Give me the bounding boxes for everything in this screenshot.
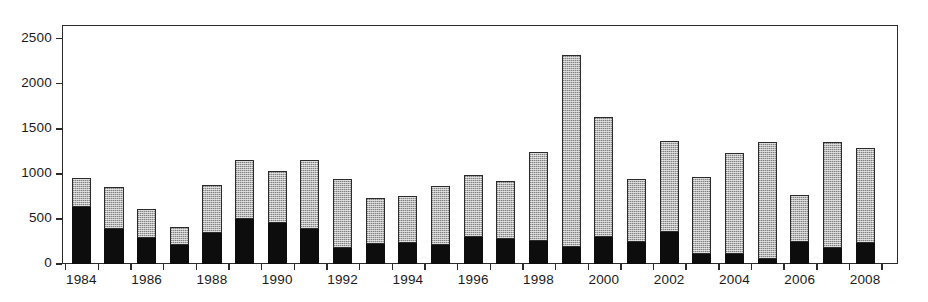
- chart-figure: 05001000150020002500 1984198619881990199…: [0, 0, 928, 302]
- bar-segment-upper: [725, 153, 744, 254]
- x-tick-mark: [261, 264, 262, 270]
- bar-1998: [529, 152, 548, 264]
- bar-segment-upper: [496, 181, 515, 239]
- x-tick-mark: [163, 264, 164, 270]
- bar-segment-lower: [529, 241, 548, 264]
- x-tick-mark: [881, 264, 882, 270]
- x-tick-label: 2002: [654, 272, 685, 287]
- y-tick-label: 2500: [21, 30, 52, 45]
- x-tick-mark: [718, 264, 719, 270]
- x-tick-mark: [588, 264, 589, 270]
- bar-segment-lower: [235, 219, 254, 264]
- bar-2001: [627, 179, 646, 264]
- bar-segment-upper: [268, 171, 287, 223]
- bar-segment-upper: [790, 195, 809, 242]
- x-tick-mark: [620, 264, 621, 270]
- bar-segment-lower: [496, 239, 515, 264]
- bar-2006: [790, 195, 809, 264]
- bar-segment-lower: [137, 238, 156, 264]
- bar-segment-lower: [104, 229, 123, 264]
- bar-segment-upper: [660, 141, 679, 233]
- bar-1986: [137, 209, 156, 264]
- bar-segment-lower: [660, 232, 679, 264]
- x-tick-mark: [457, 264, 458, 270]
- x-tick-label: 2004: [719, 272, 750, 287]
- bar-1996: [464, 175, 483, 264]
- bar-1984: [72, 178, 91, 264]
- y-tick-label: 2000: [21, 75, 52, 90]
- x-tick-label: 1988: [197, 272, 228, 287]
- x-tick-mark: [424, 264, 425, 270]
- x-tick-mark: [98, 264, 99, 270]
- bar-segment-lower: [202, 233, 221, 264]
- bar-2002: [660, 141, 679, 264]
- x-tick-mark: [294, 264, 295, 270]
- bar-segment-lower: [725, 254, 744, 264]
- x-tick-label: 1998: [523, 272, 554, 287]
- bar-segment-lower: [366, 244, 385, 264]
- x-tick-label: 1990: [262, 272, 293, 287]
- x-tick-mark: [783, 264, 784, 270]
- bar-segment-lower: [627, 242, 646, 264]
- y-tick-label: 500: [29, 210, 52, 225]
- bar-segment-lower: [594, 237, 613, 264]
- bar-segment-lower: [398, 243, 417, 264]
- bar-2000: [594, 117, 613, 264]
- bar-segment-upper: [856, 148, 875, 243]
- x-tick-mark: [359, 264, 360, 270]
- bar-segment-lower: [856, 243, 875, 264]
- x-tick-mark: [816, 264, 817, 270]
- x-tick-mark: [751, 264, 752, 270]
- bar-segment-lower: [431, 245, 450, 264]
- bar-segment-upper: [333, 179, 352, 248]
- x-tick-label: 1992: [327, 272, 358, 287]
- bar-segment-lower: [823, 248, 842, 264]
- x-tick-mark: [490, 264, 491, 270]
- x-tick-mark: [326, 264, 327, 270]
- bar-1991: [300, 160, 319, 264]
- x-axis-labels: 1984198619881990199219941996199820002002…: [0, 272, 928, 302]
- x-tick-mark: [522, 264, 523, 270]
- bar-segment-upper: [758, 142, 777, 259]
- bar-segment-upper: [823, 142, 842, 248]
- x-tick-mark: [685, 264, 686, 270]
- bar-segment-upper: [72, 178, 91, 207]
- x-tick-label: 1986: [131, 272, 162, 287]
- bar-1997: [496, 181, 515, 264]
- bar-2008: [856, 148, 875, 264]
- bar-segment-upper: [170, 227, 189, 245]
- bar-segment-lower: [300, 229, 319, 264]
- y-tick-label: 0: [44, 255, 52, 270]
- bar-2007: [823, 142, 842, 264]
- bar-1993: [366, 198, 385, 264]
- bar-segment-upper: [562, 55, 581, 247]
- bar-series-layer: [62, 25, 898, 264]
- x-tick-mark: [228, 264, 229, 270]
- bar-segment-upper: [202, 185, 221, 233]
- bar-segment-lower: [72, 207, 91, 264]
- bar-1988: [202, 185, 221, 264]
- bar-segment-upper: [464, 175, 483, 237]
- bar-1987: [170, 227, 189, 264]
- x-tick-label: 2008: [850, 272, 881, 287]
- x-tick-mark: [65, 264, 66, 270]
- x-tick-label: 1996: [458, 272, 489, 287]
- bar-1985: [104, 187, 123, 264]
- bar-segment-upper: [366, 198, 385, 244]
- y-tick-label: 1500: [21, 120, 52, 135]
- bar-2003: [692, 177, 711, 264]
- bar-2004: [725, 153, 744, 264]
- x-tick-mark: [849, 264, 850, 270]
- bar-segment-lower: [692, 254, 711, 264]
- bar-segment-upper: [137, 209, 156, 238]
- x-tick-label: 2006: [784, 272, 815, 287]
- bar-segment-lower: [268, 223, 287, 264]
- x-tick-mark: [555, 264, 556, 270]
- bar-segment-lower: [790, 242, 809, 264]
- bar-segment-upper: [529, 152, 548, 242]
- bar-segment-upper: [235, 160, 254, 219]
- bar-2005: [758, 142, 777, 264]
- x-tick-mark: [130, 264, 131, 270]
- bar-segment-upper: [300, 160, 319, 229]
- x-tick-label: 1984: [66, 272, 97, 287]
